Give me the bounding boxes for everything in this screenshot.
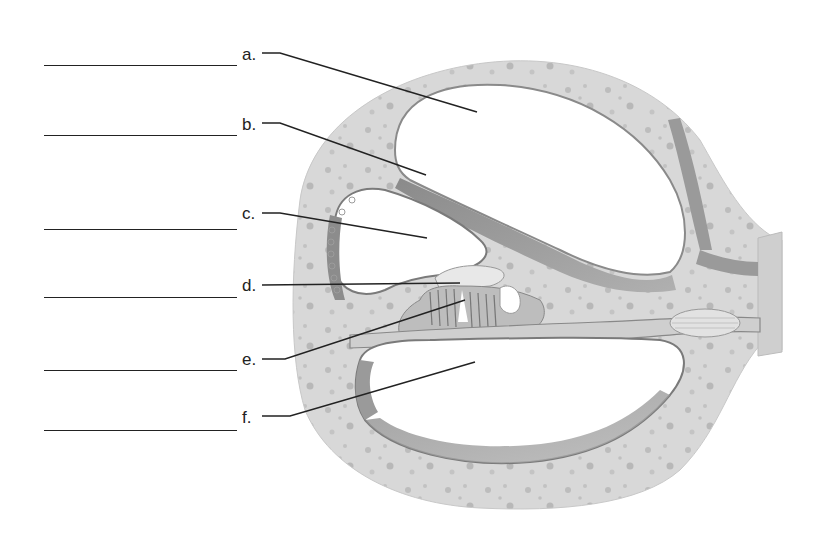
answer-blank-a[interactable] xyxy=(44,65,237,66)
label-a: a. xyxy=(242,46,256,63)
label-f: f. xyxy=(242,409,251,426)
label-b: b. xyxy=(242,116,256,133)
label-d: d. xyxy=(242,277,256,294)
answer-blank-f[interactable] xyxy=(44,430,237,431)
answer-blank-b[interactable] xyxy=(44,135,237,136)
label-e: e. xyxy=(242,351,256,368)
answer-blank-c[interactable] xyxy=(44,229,237,230)
label-c: c. xyxy=(242,205,255,222)
answer-blank-d[interactable] xyxy=(44,297,237,298)
cochlea-illustration xyxy=(0,0,825,538)
answer-blank-e[interactable] xyxy=(44,370,237,371)
cochlea-diagram: a. b. c. d. e. f. xyxy=(0,0,825,538)
